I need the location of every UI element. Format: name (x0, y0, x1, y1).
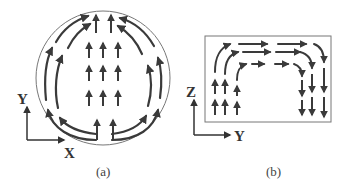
flow-diagram: Y X (a) (0, 0, 349, 186)
arrow-left-inner-mid (56, 56, 62, 108)
panel-caption-a: (a) (96, 164, 110, 179)
arrow-left-outer-lower (48, 110, 96, 140)
arrow-corner-inner-left (237, 64, 246, 80)
arrow-left-inner-upper (68, 24, 90, 48)
arrow-right-inner-lower (112, 116, 146, 134)
axis-label-x: X (64, 145, 75, 161)
axis-label-z: Z (186, 84, 196, 100)
panel-b: Z Y (b) (186, 36, 331, 179)
axis-label-y: Y (17, 91, 28, 107)
panel-caption-b: (b) (266, 164, 281, 179)
arrow-right-inner-mid (148, 66, 151, 106)
arrow-left-outer-mid (45, 48, 52, 100)
axis-label-y: Y (234, 128, 245, 144)
streamlines-b (215, 44, 324, 80)
arrow-corner-mid-left (225, 52, 238, 74)
core-arrows-a (89, 15, 118, 140)
vertical-arrows-b (215, 68, 324, 117)
arrow-right-outer-lower (112, 110, 158, 140)
panel-a: Y X (a) (17, 11, 170, 179)
arrow-corner-inner-right (294, 64, 302, 76)
arrow-right-outer-mid (158, 58, 161, 98)
arrow-right-inner-upper (118, 26, 142, 54)
arrow-corner-outer-right (314, 44, 324, 62)
arrow-corner-mid-right (300, 52, 312, 68)
